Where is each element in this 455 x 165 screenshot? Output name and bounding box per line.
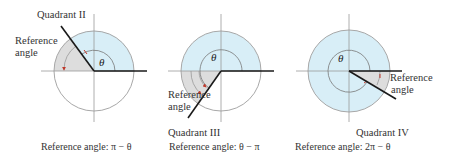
caption: Reference angle: θ − π [169,141,259,152]
diagram-quadrant-ii: θ Quadrant II Reference angle Reference … [15,9,147,152]
reference-label-line2: angle [15,47,38,58]
reference-angle-diagrams: θ Quadrant II Reference angle Reference … [0,0,455,165]
theta-label: θ [211,51,217,63]
theta-label: θ [99,56,105,68]
diagram-quadrant-iv: θ Reference angle Quadrant IV Reference … [295,14,433,152]
quadrant-label: Quadrant III [168,127,221,138]
quadrant-label: Quadrant IV [356,127,409,138]
caption: Reference angle: 2π − θ [295,141,391,152]
quadrant-label: Quadrant II [37,9,86,20]
reference-label-line1: Reference [390,72,433,83]
reference-label-line1: Reference [15,35,58,46]
caption: Reference angle: π − θ [41,141,132,152]
reference-label-line2: angle [391,84,414,95]
reference-label-line1: Reference [168,89,211,100]
theta-label: θ [338,52,344,64]
diagram-quadrant-iii: θ Reference angle Quadrant III Reference… [168,14,274,152]
reference-label-line2: angle [168,101,191,112]
